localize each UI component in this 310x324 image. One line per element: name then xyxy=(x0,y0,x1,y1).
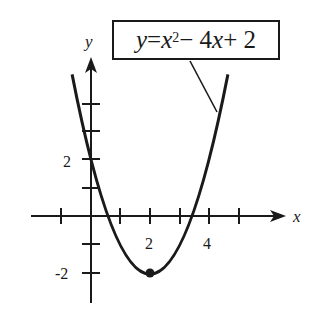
x-tick-label-4: 4 xyxy=(203,235,211,252)
y-axis-label: y xyxy=(83,32,93,51)
y-tick-label-2: 2 xyxy=(63,153,71,170)
equation-x2: x xyxy=(212,26,223,54)
equation-callout-box: y = x2 − 4x + 2 xyxy=(112,20,280,60)
vertex-point xyxy=(146,269,155,278)
x-tick-label-2: 2 xyxy=(145,235,153,252)
x-axis-label: x xyxy=(292,207,301,226)
equation-lhs: y xyxy=(136,26,147,54)
equation-minus-4: − 4 xyxy=(179,26,212,54)
callout-leader-line xyxy=(190,61,217,112)
y-tick-label-neg2: -2 xyxy=(55,265,68,282)
equation-plus-2: + 2 xyxy=(223,26,256,54)
equation-exponent: 2 xyxy=(172,30,179,46)
equation-x: x xyxy=(161,26,172,54)
equation-equals: = xyxy=(147,26,161,54)
